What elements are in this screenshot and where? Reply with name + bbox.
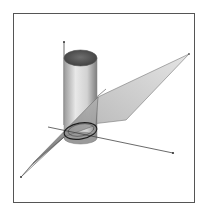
cylinder-plane-diagram bbox=[0, 0, 208, 215]
x-axis-arrow-icon bbox=[172, 152, 174, 154]
diagonal-axis-arrow-icon bbox=[20, 176, 22, 178]
cutting-plane-back bbox=[92, 54, 189, 124]
plane-vertex bbox=[188, 53, 190, 55]
diagonal-axis bbox=[21, 137, 64, 177]
z-axis-arrow-icon bbox=[63, 41, 65, 43]
cylinder-top bbox=[64, 50, 97, 66]
